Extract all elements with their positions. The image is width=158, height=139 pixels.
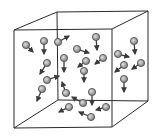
cube-depth-edge (112, 11, 148, 29)
gas-molecule (115, 61, 128, 72)
cube-back-edge (58, 100, 148, 101)
velocity-arrow-icon (59, 108, 66, 112)
velocity-arrow-icon (80, 50, 89, 53)
gas-molecule (22, 41, 33, 52)
gas-molecule (60, 54, 67, 72)
cube-back-edge (57, 11, 148, 12)
molecule-icon (73, 45, 80, 52)
molecule-icon (87, 113, 94, 120)
gas-molecule (120, 75, 127, 92)
gas-molecule (88, 88, 95, 105)
cube-depth-edge (14, 12, 57, 30)
molecule-icon (43, 59, 50, 66)
molecule-icon (92, 33, 99, 40)
velocity-arrow-icon (40, 66, 45, 74)
velocity-arrow-icon (72, 97, 80, 101)
gas-molecule (43, 76, 59, 84)
cube-front-edge (14, 29, 112, 30)
velocity-arrow-icon (121, 55, 129, 57)
molecule-icon (65, 103, 72, 110)
velocity-arrow-icon (96, 108, 103, 110)
cube-back-edge (57, 12, 58, 100)
molecule-icon (54, 38, 61, 45)
molecule-icon (38, 85, 45, 92)
molecule-icon (43, 76, 50, 83)
velocity-arrow-icon (96, 40, 97, 50)
velocity-arrow-icon (78, 63, 83, 67)
velocity-arrow-icon (132, 65, 138, 69)
velocity-arrow-icon (61, 36, 69, 40)
gas-molecule (114, 50, 129, 57)
molecule-icon (82, 57, 89, 64)
molecule-icon (102, 103, 109, 110)
gas-molecule (95, 54, 107, 64)
molecule-icon (60, 54, 67, 61)
molecule-icon (62, 89, 69, 96)
molecule-icon (114, 50, 121, 57)
gas-molecule (78, 57, 90, 67)
gas-molecule (130, 37, 137, 54)
velocity-arrow-icon (134, 44, 135, 54)
gas-molecule (92, 33, 99, 50)
molecule-icon (120, 61, 127, 68)
diagram-canvas (0, 0, 158, 139)
molecule-icon (22, 41, 29, 48)
gas-molecule (79, 112, 95, 121)
molecule-icon (137, 59, 144, 66)
gas-molecule (40, 37, 47, 54)
velocity-arrow-icon (95, 60, 100, 64)
gas-molecule (40, 59, 51, 74)
gas-molecule (62, 82, 70, 97)
molecule-icon (120, 75, 127, 82)
gas-molecule (37, 85, 46, 101)
molecule-icon (79, 99, 86, 106)
velocity-arrow-icon (79, 112, 88, 116)
gas-molecule (96, 103, 110, 110)
gas-molecule (132, 59, 145, 69)
molecule-icon (40, 37, 47, 44)
gas-molecule (54, 36, 69, 46)
velocity-arrow-icon (115, 67, 121, 72)
cube-depth-edge (112, 101, 148, 127)
cube-front-edge (14, 127, 112, 128)
cube-depth-edge (14, 100, 58, 128)
gas-box-diagram (0, 0, 158, 139)
gas-molecule (80, 67, 87, 82)
molecule-icon (88, 88, 95, 95)
molecule-icon (99, 54, 106, 61)
velocity-arrow-icon (62, 82, 65, 90)
particles (22, 33, 144, 120)
molecule-icon (80, 67, 87, 74)
gas-molecule (72, 97, 87, 107)
velocity-arrow-icon (28, 47, 33, 52)
molecule-icon (130, 37, 137, 44)
velocity-arrow-icon (37, 92, 41, 101)
gas-molecule (59, 103, 73, 112)
gas-molecule (73, 45, 89, 53)
